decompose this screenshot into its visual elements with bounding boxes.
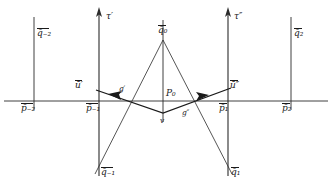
figure-container: q̄₋₂ q̄₂ τ′ τ″ q̄₀ ū′ ū″ g′ g″ P₀ v p̄₋₂… [0, 0, 332, 195]
diagonal-q0-to-q-minus1 [95, 40, 163, 174]
label-u-double-prime: ū″ [230, 81, 239, 90]
vector-chain-path [96, 88, 231, 113]
label-p-minus2: p̄₋₂ [21, 104, 35, 113]
label-q-minus1: q̄₋₁ [101, 168, 115, 177]
label-p-1: p̄₁ [219, 104, 228, 113]
label-p-2: p̄₂ [282, 104, 291, 113]
label-tau-prime: τ′ [106, 12, 113, 21]
label-P-0: P₀ [166, 89, 176, 98]
label-q-minus2: q̄₋₂ [37, 29, 51, 38]
label-tau-double-prime: τ″ [234, 12, 242, 21]
label-g-double-prime: g″ [182, 109, 189, 117]
label-u-prime: ū′ [75, 81, 83, 90]
label-q-1: q̄₁ [231, 168, 240, 177]
label-q-0: q̄₀ [158, 26, 167, 35]
label-g-prime: g′ [119, 85, 125, 93]
label-q-2: q̄₂ [294, 29, 303, 38]
label-p-minus1: p̄₋₁ [86, 104, 100, 113]
label-v: v [160, 117, 164, 125]
